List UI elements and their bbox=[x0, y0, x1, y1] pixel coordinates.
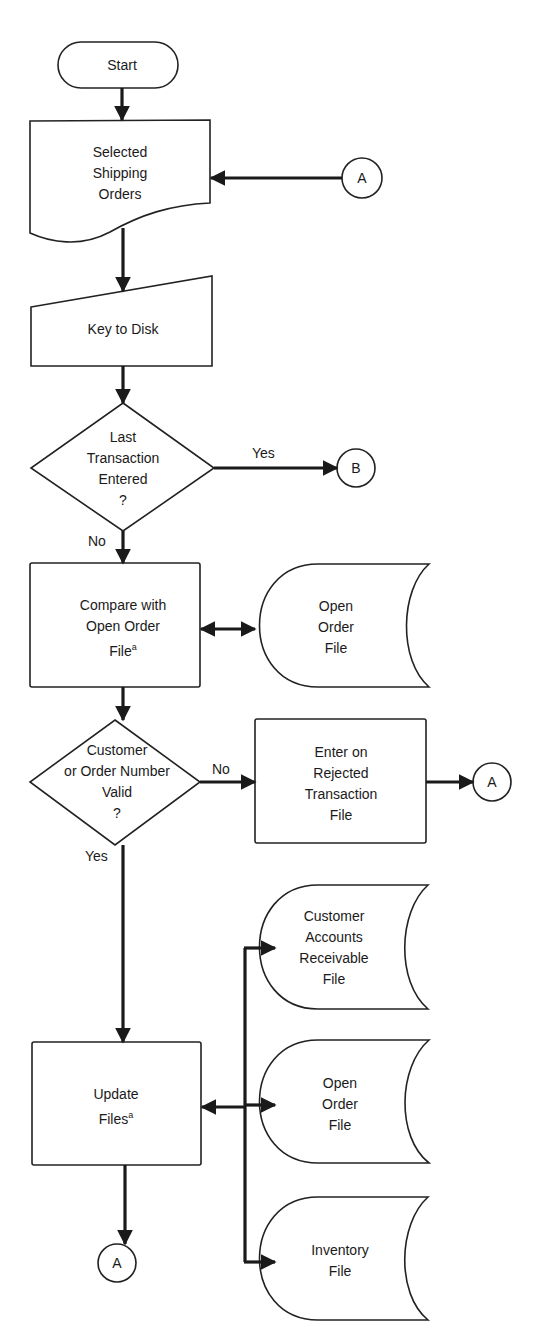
open-order-file-2-line-2: Order bbox=[322, 1094, 358, 1115]
connector-b-label: B bbox=[351, 458, 360, 479]
shipping-orders-line-1: Selected bbox=[93, 142, 148, 163]
valid-check-line-4: ? bbox=[64, 803, 170, 824]
last-transaction-line-3: Entered bbox=[87, 469, 160, 490]
edge-label-last-yes: Yes bbox=[252, 445, 275, 461]
last-transaction-line-4: ? bbox=[87, 490, 160, 511]
customer-ar-line-4: File bbox=[299, 969, 368, 990]
last-transaction-line-2: Transaction bbox=[87, 448, 160, 469]
shipping-orders-line-2: Shipping bbox=[93, 163, 148, 184]
open-order-file-2-label: Open Order File bbox=[322, 1073, 358, 1136]
open-order-file-1-label: Open Order File bbox=[318, 596, 354, 659]
open-order-file-1-line-2: Order bbox=[318, 617, 354, 638]
shipping-orders-line-3: Orders bbox=[93, 184, 148, 205]
compare-line-3: Filea bbox=[80, 637, 166, 662]
valid-check-line-1: Customer bbox=[64, 740, 170, 761]
start-label: Start bbox=[107, 55, 137, 76]
inventory-line-2: File bbox=[311, 1261, 369, 1282]
key-to-disk-label: Key to Disk bbox=[88, 319, 159, 340]
customer-ar-line-3: Receivable bbox=[299, 948, 368, 969]
edge-label-valid-no: No bbox=[212, 761, 230, 777]
update-files-line-2-text: Files bbox=[99, 1111, 129, 1127]
edge-label-last-no: No bbox=[88, 533, 106, 549]
update-files-label: Update Filesa bbox=[93, 1084, 138, 1130]
compare-line-2: Open Order bbox=[80, 616, 166, 637]
compare-label: Compare with Open Order Filea bbox=[80, 595, 166, 662]
open-order-file-2-line-1: Open bbox=[322, 1073, 358, 1094]
inventory-file-label: Inventory File bbox=[311, 1240, 369, 1282]
rejected-line-4: File bbox=[305, 805, 378, 826]
connector-a-bottom-label: A bbox=[112, 1253, 121, 1274]
rejected-line-3: Transaction bbox=[305, 784, 378, 805]
valid-check-label: Customer or Order Number Valid ? bbox=[64, 740, 170, 824]
compare-line-3-text: File bbox=[109, 643, 132, 659]
compare-footnote: a bbox=[132, 642, 137, 652]
customer-ar-line-2: Accounts bbox=[299, 927, 368, 948]
valid-check-line-3: Valid bbox=[64, 782, 170, 803]
connector-a-right-label: A bbox=[487, 772, 496, 793]
open-order-file-1-line-1: Open bbox=[318, 596, 354, 617]
update-files-line-1: Update bbox=[93, 1084, 138, 1105]
update-files-line-2: Filesa bbox=[93, 1105, 138, 1130]
update-files-footnote: a bbox=[128, 1110, 133, 1120]
compare-line-1: Compare with bbox=[80, 595, 166, 616]
last-transaction-line-1: Last bbox=[87, 427, 160, 448]
customer-ar-file-label: Customer Accounts Receivable File bbox=[299, 906, 368, 990]
open-order-file-1-line-3: File bbox=[318, 638, 354, 659]
rejected-label: Enter on Rejected Transaction File bbox=[305, 742, 378, 826]
shipping-orders-label: Selected Shipping Orders bbox=[93, 142, 148, 205]
open-order-file-2-line-3: File bbox=[322, 1115, 358, 1136]
edge-label-valid-yes: Yes bbox=[85, 848, 108, 864]
rejected-line-1: Enter on bbox=[305, 742, 378, 763]
inventory-line-1: Inventory bbox=[311, 1240, 369, 1261]
rejected-line-2: Rejected bbox=[305, 763, 378, 784]
last-transaction-label: Last Transaction Entered ? bbox=[87, 427, 160, 511]
connector-a-top-label: A bbox=[357, 168, 366, 189]
customer-ar-line-1: Customer bbox=[299, 906, 368, 927]
valid-check-line-2: or Order Number bbox=[64, 761, 170, 782]
